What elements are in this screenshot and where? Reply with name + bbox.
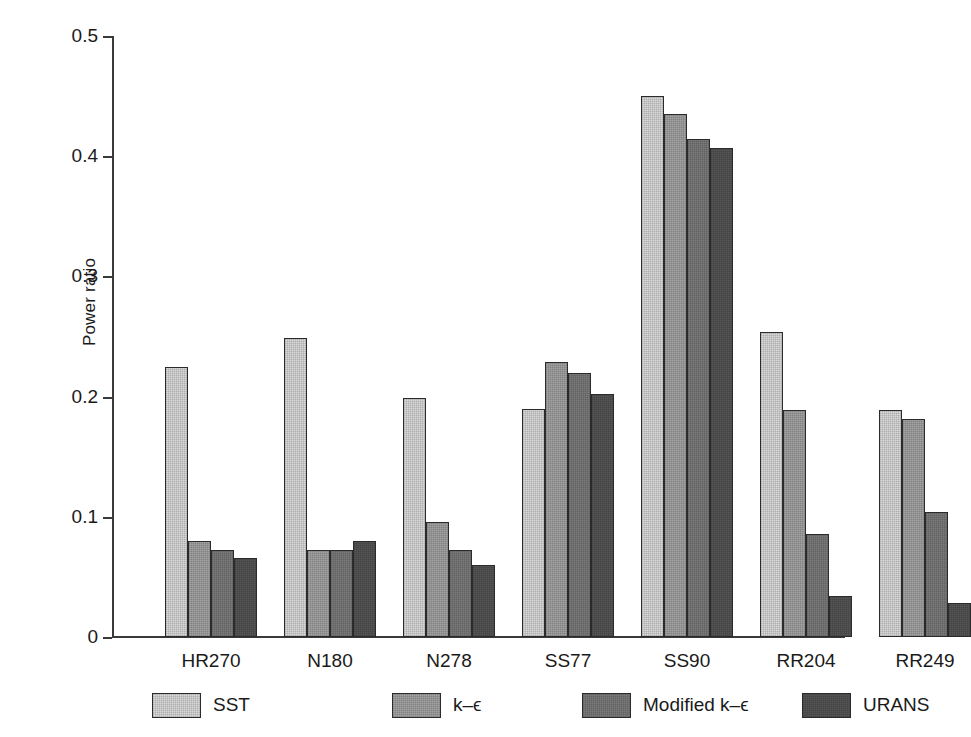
x-axis-group-label: RR204	[776, 650, 835, 672]
bar	[472, 565, 495, 637]
bar	[330, 550, 353, 637]
legend-swatch	[152, 693, 201, 718]
bar	[948, 603, 971, 637]
legend-item: SST	[152, 691, 250, 719]
y-axis-tick-label: 0.3	[72, 265, 98, 287]
bar	[687, 139, 710, 637]
bar	[449, 550, 472, 637]
bar	[403, 398, 426, 637]
bar	[211, 550, 234, 637]
plot-area: 00.10.20.30.40.5	[112, 36, 845, 637]
legend-label: SST	[213, 694, 250, 716]
y-axis-tick-mark	[103, 637, 112, 639]
bar	[522, 409, 545, 637]
chart-legend: SSTk–ϵModified k–ϵURANS	[112, 691, 845, 725]
bar	[902, 419, 925, 637]
bar	[879, 410, 902, 637]
bar	[234, 558, 257, 637]
legend-swatch	[392, 693, 441, 718]
legend-item: k–ϵ	[392, 691, 481, 719]
y-axis-tick-mark	[103, 517, 112, 519]
bar	[426, 522, 449, 637]
legend-item: Modified k–ϵ	[582, 691, 749, 719]
bar	[783, 410, 806, 637]
y-axis-label: Power ratio	[80, 222, 100, 382]
y-axis-tick-mark	[103, 156, 112, 158]
bar	[664, 114, 687, 637]
y-axis-tick-label: 0.1	[72, 506, 98, 528]
bar	[925, 512, 948, 637]
bar	[591, 394, 614, 637]
bar	[710, 148, 733, 637]
bar	[760, 332, 783, 637]
bar	[568, 373, 591, 637]
bar	[545, 362, 568, 637]
legend-item: URANS	[802, 691, 930, 719]
legend-swatch	[802, 693, 851, 718]
y-axis-tick-label: 0.2	[72, 386, 98, 408]
legend-label: k–ϵ	[453, 694, 481, 716]
legend-label: URANS	[863, 694, 930, 716]
bar	[353, 541, 376, 637]
x-axis-group-label: N278	[426, 650, 471, 672]
bar	[829, 596, 852, 637]
y-axis-tick-label: 0.4	[72, 145, 98, 167]
x-axis-group-label: SS77	[545, 650, 591, 672]
y-axis-tick-mark	[103, 397, 112, 399]
bar	[188, 541, 211, 637]
legend-swatch	[582, 693, 631, 718]
y-axis-tick-label: 0	[87, 626, 98, 648]
bar	[284, 338, 307, 637]
bar	[641, 96, 664, 637]
y-axis-tick-mark	[103, 36, 112, 38]
bar	[165, 367, 188, 637]
x-axis-group-label: N180	[307, 650, 352, 672]
x-axis-group-label: RR249	[895, 650, 954, 672]
y-axis-tick-label: 0.5	[72, 25, 98, 47]
legend-label: Modified k–ϵ	[643, 694, 749, 716]
x-axis-group-label: SS90	[664, 650, 710, 672]
x-axis-group-label: HR270	[181, 650, 240, 672]
y-axis-tick-mark	[103, 276, 112, 278]
bar	[806, 534, 829, 637]
bar	[307, 550, 330, 637]
